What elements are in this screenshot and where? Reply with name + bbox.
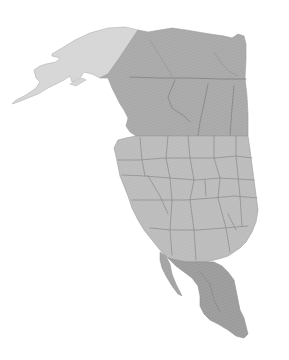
texture-overlay	[0, 0, 289, 360]
north-america-map	[0, 0, 289, 360]
